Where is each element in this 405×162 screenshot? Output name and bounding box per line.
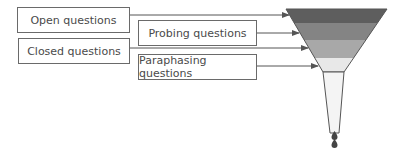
funnel-band-4 [280, 58, 395, 72]
box-paraphasing-questions: Paraphasing questions [138, 54, 257, 80]
box-open-questions: Open questions [17, 7, 130, 33]
funnel-band-3 [280, 40, 395, 58]
box-label: Open questions [30, 14, 116, 27]
box-probing-questions: Probing questions [138, 20, 257, 46]
drop-icon [332, 139, 338, 148]
box-label: Paraphasing questions [139, 54, 256, 80]
box-label: Probing questions [148, 27, 246, 40]
box-closed-questions: Closed questions [18, 38, 130, 64]
funnel-band-2 [280, 23, 395, 40]
funnel-cone [280, 9, 395, 72]
funnel-neck [323, 72, 344, 133]
funnel-band-1 [280, 9, 395, 23]
box-label: Closed questions [27, 45, 121, 58]
